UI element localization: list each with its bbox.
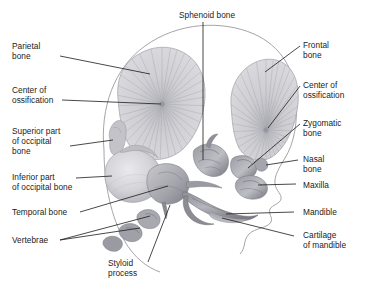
- label-parietal-bone: Parietal bone: [12, 41, 82, 61]
- label-frontal-bone: Frontal bone: [303, 40, 363, 60]
- label-styloid-process: Styloid process: [108, 258, 168, 278]
- label-zygomatic-bone: Zygomatic bone: [303, 118, 365, 138]
- label-cartilage-of-mandible: Cartilage of mandible: [303, 230, 365, 250]
- styloid-process: [162, 202, 167, 219]
- label-sphenoid-bone: Sphenoid bone: [152, 10, 262, 20]
- label-temporal-bone: Temporal bone: [12, 207, 102, 217]
- label-center-of-ossification-right: Center of ossification: [303, 80, 365, 100]
- label-nasal-bone: Nasal bone: [303, 154, 359, 174]
- leader-nasal: [266, 160, 298, 165]
- maxilla: [235, 176, 267, 200]
- figure-canvas: Sphenoid bone Parietal bone Center of os…: [0, 0, 365, 294]
- sphenoid-bone: [193, 134, 228, 177]
- label-vertebrae: Vertebrae: [12, 235, 82, 245]
- leader-mandible: [226, 212, 294, 214]
- leader-cartilage: [222, 218, 294, 236]
- vertebrae: [103, 210, 160, 252]
- label-superior-part-of-occipital-bone: Superior part of occipital bone: [12, 126, 96, 157]
- label-maxilla: Maxilla: [303, 180, 359, 190]
- label-center-of-ossification-left: Center of ossification: [12, 85, 92, 105]
- label-inferior-part-of-occipital-bone: Inferior part of occipital bone: [12, 172, 106, 192]
- label-mandible: Mandible: [303, 207, 363, 217]
